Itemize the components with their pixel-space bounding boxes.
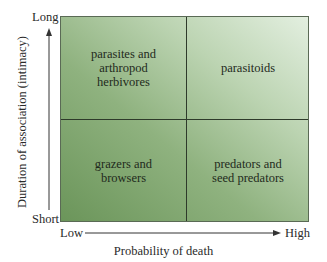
quadrant-text: arthropod [91,61,156,75]
x-axis-title: Probability of death [0,244,327,259]
quadrant-text: parasitoids [221,61,275,75]
quadrant-text: grazers and [95,157,152,171]
quadrant-text: parasites and [91,47,156,61]
quadrant-top-right: parasitoids [187,17,309,119]
quadrant-text: seed predators [212,171,284,185]
quadrant-grid: parasites and arthropod herbivores paras… [60,16,309,222]
quadrant-top-left: parasites and arthropod herbivores [61,17,186,119]
quadrant-text: browsers [95,171,152,185]
x-axis-right-label: High [285,226,310,241]
y-axis-bottom-label: Short [32,212,59,227]
quadrant-text: herbivores [91,75,156,89]
x-axis-left-label: Low [60,226,83,241]
quadrant-bottom-left: grazers and browsers [61,120,186,222]
quadrant-text: predators and [212,157,284,171]
y-axis-title: Duration of association (intimacy) [15,36,30,208]
y-axis-arrowhead-icon [46,28,52,36]
y-axis-top-label: Long [32,10,58,25]
quadrant-bottom-right: predators and seed predators [187,120,309,222]
x-axis-arrowhead-icon [273,230,281,236]
